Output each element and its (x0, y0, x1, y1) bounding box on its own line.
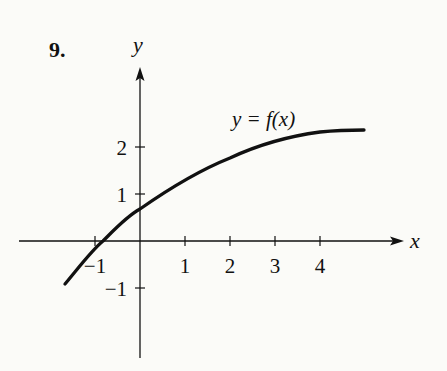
graph: −1 1 2 3 4 2 1 −1 x y 9. y = f(x) (0, 0, 447, 371)
x-tick-label: 1 (180, 254, 191, 278)
curve-label: y = f(x) (230, 107, 295, 131)
y-tick-label: −1 (105, 277, 127, 301)
y-axis-label: y (131, 32, 143, 57)
x-tick-label: 2 (225, 254, 236, 278)
problem-number: 9. (49, 37, 66, 62)
y-tick-label: 2 (117, 136, 128, 160)
x-tick-label: 4 (315, 254, 326, 278)
x-tick-label: 3 (270, 254, 281, 278)
x-axis-label: x (409, 228, 420, 253)
y-tick-label: 1 (117, 183, 128, 207)
